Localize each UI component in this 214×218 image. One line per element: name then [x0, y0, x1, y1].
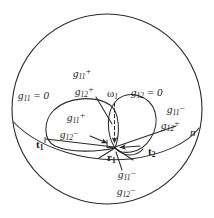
label-g11-plus-outer: g11+ [73, 68, 91, 79]
label-n: n [190, 127, 196, 138]
right-loop-curve [108, 95, 156, 153]
label-g11-equals-zero: g11 = 0 [18, 90, 49, 101]
pointer-arrow-g12minus [90, 136, 107, 143]
label-t2: t2 [148, 146, 155, 157]
leader-line-g12plus [96, 97, 112, 124]
label-g12-equals-zero: g12 = 0 [131, 87, 162, 98]
label-r1: r1 [107, 152, 116, 163]
label-g12-minus-bottom: g12– [117, 186, 135, 197]
label-g12-plus-right: g12+ [161, 120, 179, 131]
label-g12-plus-outer: g12+ [75, 86, 93, 97]
label-g12-minus-inner: g12– [60, 129, 78, 140]
label-g11-minus-right: g11– [167, 104, 184, 115]
label-g11-plus-inner: g11+ [67, 112, 85, 123]
ray-from-t1 [46, 139, 114, 147]
figure-container: g11 = 0 g12 = 0 g11+ g12+ ω1 g11+ g12– g… [0, 0, 214, 218]
label-g11-minus-bottom: g11– [118, 169, 135, 180]
pointer-arrow-t2 [120, 146, 140, 148]
label-omega1: ω1 [107, 88, 118, 99]
label-t1: t1 [36, 139, 43, 150]
